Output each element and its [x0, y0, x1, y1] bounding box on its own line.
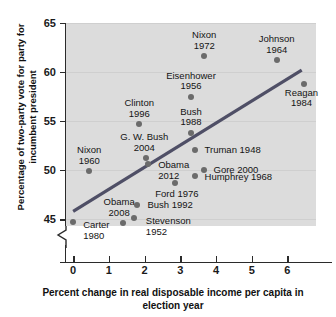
- x-axis-tick: [73, 256, 74, 262]
- x-axis-tick-label: 2: [135, 264, 155, 276]
- data-point: [188, 94, 194, 100]
- data-point-label: Nixon 1972: [164, 30, 244, 51]
- x-axis-tick-label: 4: [206, 264, 226, 276]
- data-point: [201, 167, 207, 173]
- data-point-label: Bush 1992: [147, 200, 192, 211]
- data-point: [301, 81, 307, 87]
- y-axis-line: [65, 23, 66, 226]
- y-axis-tick-label: 55: [32, 116, 56, 127]
- y-axis-tick-label: 45: [32, 214, 56, 225]
- x-axis-tick: [109, 256, 110, 262]
- data-point: [172, 180, 178, 186]
- gridline: [66, 23, 316, 24]
- data-point-label: Reagan 1984: [262, 88, 336, 109]
- data-point-label: Johnson 1964: [237, 34, 317, 55]
- y-axis-tick: [60, 219, 65, 220]
- data-point-label: Carter 1980: [83, 220, 109, 241]
- data-point-label: Truman 1948: [205, 145, 261, 156]
- data-point-label: Stevenson 1952: [146, 216, 191, 237]
- x-axis-tick-label: 1: [99, 264, 119, 276]
- gridline: [66, 170, 316, 171]
- data-point-label: Eisenhower 1956: [151, 71, 231, 92]
- y-axis-tick: [60, 72, 65, 73]
- data-point-label: Ford 1976: [137, 189, 217, 200]
- data-point: [192, 173, 198, 179]
- data-point: [274, 57, 280, 63]
- data-point-label: Obama 2012: [158, 160, 189, 181]
- y-axis-tick-label: 60: [32, 67, 56, 78]
- x-axis-tick-label: 3: [170, 264, 190, 276]
- y-axis-tick-label: 65: [32, 18, 56, 29]
- data-point-label: Bush 1988: [151, 107, 231, 128]
- y-axis-break-icon: [55, 226, 71, 248]
- scatter-chart-figure: Percentage of two-party vote for party f…: [0, 0, 336, 317]
- data-point-label: G. W. Bush 2004: [104, 132, 184, 153]
- x-axis-tick: [216, 256, 217, 262]
- data-point: [131, 215, 137, 221]
- data-point: [188, 130, 194, 136]
- x-axis-tick: [252, 256, 253, 262]
- x-axis-tick-label: 6: [277, 264, 297, 276]
- y-axis-tick-label: 50: [32, 165, 56, 176]
- y-axis-tick: [60, 121, 65, 122]
- x-axis-tick-label: 5: [242, 264, 262, 276]
- x-axis-tick: [180, 256, 181, 262]
- x-axis-tick: [145, 256, 146, 262]
- y-axis-tick: [60, 170, 65, 171]
- x-axis-tick: [287, 256, 288, 262]
- x-axis-title: Percent change in real disposable income…: [28, 287, 318, 312]
- x-axis-tick-label: 0: [63, 264, 83, 276]
- data-point-label: Gore 2000: [214, 165, 259, 176]
- y-axis-tick: [60, 23, 65, 24]
